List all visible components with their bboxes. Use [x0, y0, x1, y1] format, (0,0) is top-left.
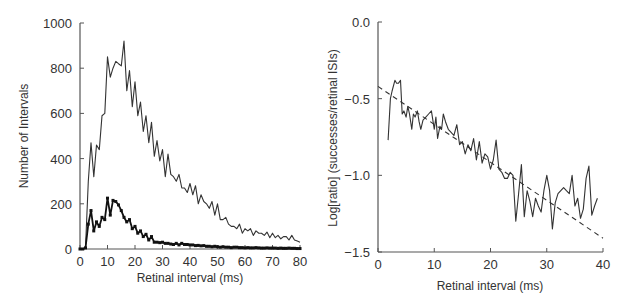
- left-series-1-marker: [205, 245, 208, 248]
- left-series-1-marker: [156, 241, 159, 244]
- left-series-1-marker: [194, 244, 197, 247]
- right-x-tick-label: 0: [374, 257, 381, 272]
- left-series-1-marker: [241, 246, 244, 249]
- left-x-axis-label: Retinal interval (ms): [137, 271, 244, 285]
- left-series-1-marker: [79, 248, 82, 251]
- left-series-1-marker: [189, 243, 192, 246]
- left-y-tick-label: 200: [50, 197, 72, 212]
- left-series-1-marker: [125, 220, 128, 223]
- left-series-0-line: [80, 41, 300, 249]
- left-series-1-marker: [158, 241, 161, 244]
- right-series: [378, 80, 603, 238]
- left-series-1-marker: [145, 233, 148, 236]
- left-series-1-marker: [216, 245, 219, 248]
- right-y-tick-label: 0.0: [352, 15, 370, 30]
- left-series-1-marker: [114, 200, 117, 203]
- left-series-1-marker: [90, 209, 93, 212]
- left-x-tick-label: 80: [293, 254, 307, 269]
- left-series-1-marker: [235, 246, 238, 249]
- left-series-1-marker: [271, 247, 274, 250]
- left-series-1-line: [80, 198, 300, 249]
- left-series-1-marker: [106, 197, 109, 200]
- left-series-1-marker: [178, 243, 181, 246]
- left-series-1-marker: [191, 243, 194, 246]
- left-x-tick-label: 20: [128, 254, 142, 269]
- left-series-1-marker: [246, 246, 249, 249]
- left-series-1-marker: [131, 227, 134, 230]
- left-series-1-marker: [109, 214, 112, 217]
- left-series-1-marker: [296, 247, 299, 250]
- left-series-1-marker: [299, 247, 302, 250]
- right-y-tick-label: −1.0: [344, 168, 370, 183]
- left-series-1-marker: [279, 247, 282, 250]
- left-series-1-marker: [285, 247, 288, 250]
- right-y-axis-label: Log[ratio] (successes/retinal ISIs): [326, 49, 340, 226]
- left-series-1-marker: [252, 246, 255, 249]
- left-x-tick-label: 10: [100, 254, 114, 269]
- left-series-1-marker: [98, 225, 101, 228]
- left-series-1-marker: [222, 245, 225, 248]
- left-series-1-marker: [153, 241, 156, 244]
- left-series-1-marker: [219, 246, 222, 249]
- left-x-tick-label: 50: [210, 254, 224, 269]
- left-axes: 0200400600800100001020304050607080: [43, 16, 307, 269]
- left-series-1-marker: [227, 246, 230, 249]
- left-y-tick-label: 0: [65, 242, 72, 257]
- left-series-1-marker: [233, 246, 236, 249]
- left-series-1-marker: [213, 245, 216, 248]
- left-series-1-marker: [120, 209, 123, 212]
- left-series-1-marker: [142, 235, 145, 238]
- left-series-1-marker: [200, 244, 203, 247]
- left-series-1-marker: [268, 247, 271, 250]
- left-y-tick-label: 1000: [43, 16, 72, 31]
- right-x-tick-label: 30: [540, 257, 554, 272]
- left-x-tick-label: 70: [265, 254, 279, 269]
- left-series-1-marker: [175, 242, 178, 245]
- right-x-tick-label: 20: [483, 257, 497, 272]
- right-axes: 0.0−0.5−1.0−1.5010203040: [344, 15, 610, 272]
- left-series-1-marker: [208, 245, 211, 248]
- left-series-1-marker: [224, 246, 227, 249]
- left-x-tick-label: 60: [238, 254, 252, 269]
- left-series-1-marker: [161, 241, 164, 244]
- left-y-tick-label: 600: [50, 106, 72, 121]
- right-y-tick-label: −0.5: [344, 92, 370, 107]
- right-series-1-line: [378, 86, 603, 238]
- left-series-1-marker: [128, 218, 131, 221]
- left-series-1-marker: [249, 246, 252, 249]
- left-series-1-marker: [183, 243, 186, 246]
- left-series-1-marker: [230, 246, 233, 249]
- left-y-tick-label: 400: [50, 152, 72, 167]
- left-series-1-marker: [150, 235, 153, 238]
- left-series-1-marker: [101, 216, 104, 219]
- left-series-1-marker: [87, 223, 90, 226]
- left-series-1-marker: [180, 242, 183, 245]
- left-series-1-marker: [95, 220, 98, 223]
- left-series-1-marker: [84, 246, 87, 249]
- left-series-1-marker: [136, 232, 139, 235]
- right-x-axis-label: Retinal interval (ms): [437, 279, 544, 293]
- left-series-1-marker: [169, 243, 172, 246]
- left-series-1-marker: [202, 244, 205, 247]
- log-ratio-panel: 0.0−0.5−1.0−1.5010203040 Retinal interva…: [326, 15, 610, 293]
- left-series-1-marker: [274, 247, 277, 250]
- right-series-0-line: [388, 80, 597, 229]
- left-series-1-marker: [277, 247, 280, 250]
- right-x-tick-label: 40: [596, 257, 610, 272]
- figure: 0200400600800100001020304050607080 Retin…: [0, 0, 629, 307]
- left-series-1-marker: [164, 242, 167, 245]
- left-series-1-marker: [172, 243, 175, 246]
- histogram-panel: 0200400600800100001020304050607080 Retin…: [17, 16, 307, 285]
- left-series-1-marker: [197, 244, 200, 247]
- left-series-1-marker: [255, 246, 258, 249]
- left-series-1-marker: [257, 246, 260, 249]
- left-series-1-marker: [293, 247, 296, 250]
- left-series-1-marker: [211, 245, 214, 248]
- left-series-1-marker: [282, 247, 285, 250]
- left-series-1-marker: [81, 248, 84, 251]
- left-series-1-marker: [103, 218, 106, 221]
- left-series-1-marker: [123, 216, 126, 219]
- left-series-1-marker: [117, 203, 120, 206]
- left-series-1-marker: [263, 247, 266, 250]
- left-series-1-marker: [167, 242, 170, 245]
